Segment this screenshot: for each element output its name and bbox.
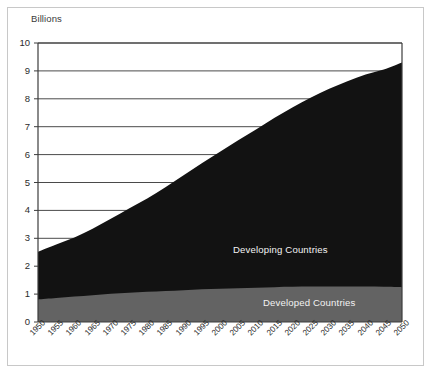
chart-figure: Billions 012345678910 195019551960196519… bbox=[0, 0, 432, 374]
y-tick-label: 3 bbox=[6, 232, 30, 243]
y-tick-label: 8 bbox=[6, 93, 30, 104]
y-tick-label: 0 bbox=[6, 316, 30, 327]
plot-area: 012345678910 195019551960196519701975198… bbox=[0, 0, 432, 374]
y-tick-label: 1 bbox=[6, 288, 30, 299]
series-label-developed-countries: Developed Countries bbox=[263, 297, 355, 308]
y-tick-label: 6 bbox=[6, 149, 30, 160]
y-tick-label: 7 bbox=[6, 121, 30, 132]
y-tick-label: 5 bbox=[6, 177, 30, 188]
series-label-developing-countries: Developing Countries bbox=[233, 244, 328, 255]
y-tick-label: 9 bbox=[6, 65, 30, 76]
y-tick-label: 2 bbox=[6, 260, 30, 271]
y-tick-label: 10 bbox=[6, 37, 30, 48]
y-tick-label: 4 bbox=[6, 204, 30, 215]
